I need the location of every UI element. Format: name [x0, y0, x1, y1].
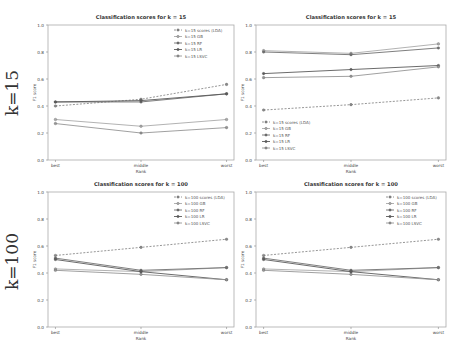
y-axis-label: F1 score — [32, 250, 37, 268]
data-point — [140, 99, 143, 102]
x-axis-label: Rank — [136, 169, 147, 174]
y-tick-label: 0.6 — [37, 244, 44, 249]
chart-k15-right: Classification scores for k = 150.00.20.… — [236, 10, 450, 180]
data-point — [437, 238, 440, 241]
x-tick-label: worst — [433, 330, 445, 335]
legend-entry: k=100 scores (LDA) — [185, 195, 225, 200]
legend-entry: k=15 LR — [273, 139, 290, 144]
data-point — [140, 273, 143, 276]
data-point — [225, 118, 228, 121]
y-tick-label: 0.4 — [37, 104, 44, 109]
x-axis-label: Rank — [346, 169, 357, 174]
y-tick-label: 0.4 — [245, 271, 252, 276]
legend-entry: k=100 scores (LDA) — [397, 195, 437, 200]
chart-title: Classification scores for k = 100 — [94, 181, 188, 187]
chart-title: Classification scores for k = 15 — [306, 14, 397, 20]
y-tick-label: 0.6 — [37, 77, 44, 82]
y-tick-label: 0.6 — [245, 77, 252, 82]
y-tick-label: 0.2 — [37, 298, 44, 303]
data-point — [225, 126, 228, 129]
x-tick-label: worst — [221, 163, 233, 168]
legend-entry: k=15 LSVC — [273, 146, 296, 151]
data-point — [262, 72, 265, 75]
data-point — [262, 258, 265, 261]
y-tick-label: 0.8 — [37, 217, 44, 222]
legend-entry: k=15 GB — [185, 34, 203, 39]
legend-entry: k=15 scores (LDA) — [273, 120, 311, 125]
x-tick-label: best — [259, 163, 268, 168]
plot-frame — [48, 25, 234, 160]
y-tick-label: 0.8 — [245, 217, 252, 222]
y-tick-label: 0.0 — [37, 158, 44, 163]
data-point — [437, 97, 440, 100]
y-axis-label: F1 score — [240, 250, 245, 268]
chart-k15-left: Classification scores for k = 150.00.20.… — [28, 10, 238, 180]
x-tick-label: best — [51, 163, 60, 168]
legend-entry: k=100 LSVC — [185, 221, 210, 226]
x-tick-label: best — [259, 330, 268, 335]
plot-frame — [256, 192, 446, 327]
legend-entry: k=15 LSVC — [185, 54, 208, 59]
data-point — [225, 83, 228, 86]
y-tick-label: 0.6 — [245, 244, 252, 249]
y-tick-label: 0.0 — [245, 158, 252, 163]
data-point — [225, 266, 228, 269]
data-point — [350, 270, 353, 273]
data-point — [54, 101, 57, 104]
data-point — [350, 246, 353, 249]
data-point — [140, 132, 143, 135]
data-point — [350, 75, 353, 78]
data-point — [262, 51, 265, 54]
data-point — [225, 93, 228, 96]
y-tick-label: 1.0 — [245, 23, 252, 28]
y-tick-label: 0.2 — [245, 298, 252, 303]
data-point — [225, 278, 228, 281]
legend-entry: k=100 LSVC — [397, 221, 422, 226]
legend-entry: k=100 RF — [397, 208, 417, 213]
y-axis-label: F1 score — [240, 83, 245, 101]
data-point — [54, 118, 57, 121]
data-point — [140, 270, 143, 273]
y-tick-label: 0.0 — [245, 325, 252, 330]
legend-entry: k=15 LR — [185, 47, 202, 52]
data-point — [350, 53, 353, 56]
data-point — [350, 273, 353, 276]
data-point — [140, 246, 143, 249]
data-point — [225, 238, 228, 241]
y-tick-label: 1.0 — [37, 23, 44, 28]
x-tick-label: middle — [134, 330, 149, 335]
data-point — [262, 76, 265, 79]
legend-entry: k=100 GB — [185, 201, 206, 206]
series-line — [264, 258, 439, 270]
data-point — [350, 68, 353, 71]
legend-entry: k=100 GB — [397, 201, 418, 206]
data-point — [437, 47, 440, 50]
data-point — [54, 258, 57, 261]
x-tick-label: middle — [134, 163, 149, 168]
data-point — [262, 269, 265, 272]
data-point — [54, 269, 57, 272]
legend-entry: k=15 RF — [185, 41, 203, 46]
y-axis-label: F1 score — [32, 83, 37, 101]
x-tick-label: worst — [221, 330, 233, 335]
data-point — [437, 66, 440, 69]
y-tick-label: 0.2 — [37, 131, 44, 136]
chart-title: Classification scores for k = 15 — [96, 14, 187, 20]
data-point — [54, 122, 57, 125]
data-point — [262, 254, 265, 257]
y-tick-label: 1.0 — [245, 190, 252, 195]
data-point — [437, 278, 440, 281]
data-point — [262, 109, 265, 112]
y-tick-label: 1.0 — [37, 190, 44, 195]
chart-k100-left: Classification scores for k = 1000.00.20… — [28, 177, 238, 347]
x-tick-label: worst — [433, 163, 445, 168]
y-tick-label: 0.4 — [245, 104, 252, 109]
data-point — [54, 254, 57, 257]
x-tick-label: middle — [344, 163, 359, 168]
data-point — [54, 105, 57, 108]
data-point — [140, 125, 143, 128]
x-axis-label: Rank — [346, 336, 357, 341]
chart-title: Classification scores for k = 100 — [304, 181, 398, 187]
legend-entry: k=15 GB — [273, 126, 291, 131]
y-tick-label: 0.4 — [37, 271, 44, 276]
